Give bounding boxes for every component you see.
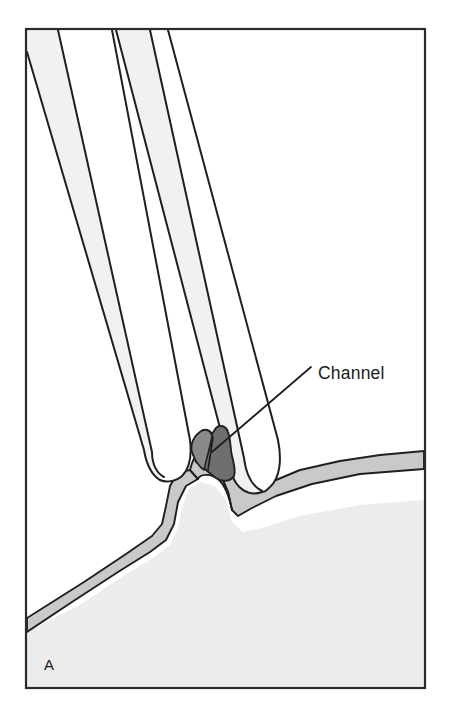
channel-label: Channel bbox=[318, 363, 385, 383]
figure-illustration: Channel A bbox=[0, 0, 451, 714]
figure-panel: Channel A bbox=[0, 0, 451, 714]
panel-letter-label: A bbox=[44, 656, 54, 673]
panel-contents bbox=[27, 30, 424, 687]
